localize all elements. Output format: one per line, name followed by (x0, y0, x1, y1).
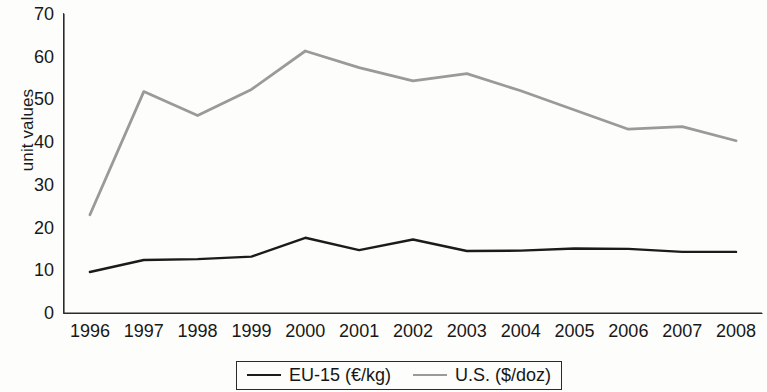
y-axis-tick-label: 10 (8, 261, 54, 279)
x-axis-tick-label: 1998 (171, 320, 225, 342)
x-axis-tick-label: 2007 (655, 320, 709, 342)
x-axis-tick-label: 2001 (332, 320, 386, 342)
y-axis-tick-label: 0 (8, 304, 54, 322)
y-axis-tick-label: 50 (8, 90, 54, 108)
data-series-layer (90, 51, 736, 272)
x-axis-tick-label: 2006 (601, 320, 655, 342)
x-axis-tick-label: 1996 (63, 320, 117, 342)
series-line-us (90, 51, 736, 215)
y-axis-tick-label: 70 (8, 5, 54, 23)
legend-line-swatch-eu-15 (247, 374, 281, 376)
x-axis-tick-label: 2003 (440, 320, 494, 342)
line-chart-figure: unit values 010203040506070 199619971998… (0, 0, 767, 392)
x-axis-tick-labels: 1996199719981999200020012002200320042005… (63, 320, 763, 348)
x-axis-tick-label: 2000 (278, 320, 332, 342)
y-axis-tick-label: 40 (8, 133, 54, 151)
chart-legend: EU-15 (€/kg) U.S. ($/doz) (236, 361, 562, 390)
x-axis-tick-label: 2005 (548, 320, 602, 342)
x-axis-tick-label: 1999 (225, 320, 279, 342)
y-axis-tick-label: 20 (8, 219, 54, 237)
legend-label-us: U.S. ($/doz) (455, 365, 551, 385)
legend-entry-us: U.S. ($/doz) (413, 365, 551, 385)
plot-area (63, 13, 763, 314)
legend-entry-eu-15: EU-15 (€/kg) (247, 365, 391, 385)
x-axis-tick-label: 1997 (117, 320, 171, 342)
chart-plot-svg (63, 13, 763, 314)
series-line-eu-15 (90, 238, 736, 272)
y-axis-tick-label: 30 (8, 176, 54, 194)
x-axis-tick-label: 2002 (386, 320, 440, 342)
legend-label-eu-15: EU-15 (€/kg) (289, 365, 391, 385)
legend-line-swatch-us (413, 374, 447, 376)
x-axis-tick-label: 2004 (494, 320, 548, 342)
x-axis-tick-label: 2008 (709, 320, 763, 342)
y-axis-tick-labels: 010203040506070 (6, 0, 54, 330)
y-axis-tick-label: 60 (8, 48, 54, 66)
axis-spines (64, 14, 762, 313)
